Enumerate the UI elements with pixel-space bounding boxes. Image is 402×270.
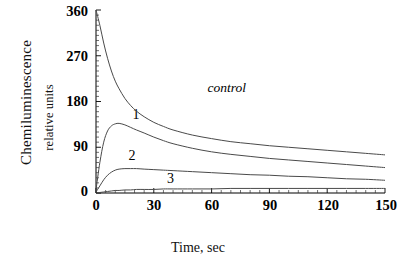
data-curves (96, 10, 385, 193)
curve-1 (96, 123, 385, 190)
axes (96, 10, 385, 193)
curve-control (96, 10, 385, 155)
